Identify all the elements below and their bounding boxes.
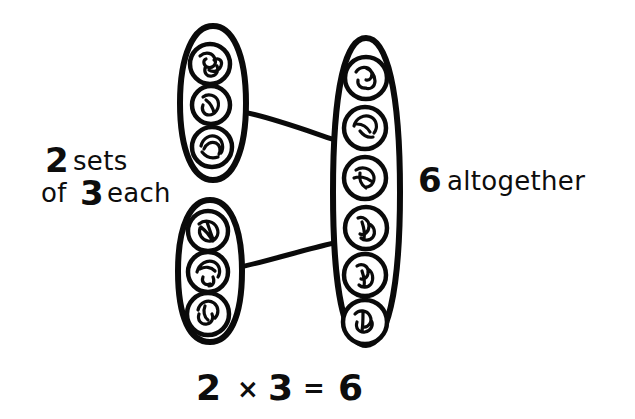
left-caption: 2 sets of 3 each: [41, 140, 171, 213]
set-item[interactable]: [187, 293, 229, 335]
diagram-svg: 2 sets of 3 each 6 altogether 2 × 3 = 6: [0, 0, 635, 419]
item-circle: [344, 254, 386, 296]
set-item[interactable]: [190, 44, 230, 84]
set-item[interactable]: [345, 57, 387, 99]
set-item[interactable]: [188, 252, 228, 292]
set-item[interactable]: [344, 107, 386, 149]
connector-line-bottom: [240, 243, 334, 267]
left-caption-word-each: each: [107, 178, 171, 208]
group-right-total-set[interactable]: [333, 38, 400, 345]
equation-multiply-operator: ×: [237, 374, 259, 404]
math-diagram-canvas: 2 sets of 3 each 6 altogether 2 × 3 = 6: [0, 0, 635, 419]
left-caption-word-sets: sets: [73, 146, 127, 176]
equation-left-operand: 2: [196, 367, 221, 408]
set-item[interactable]: [345, 207, 387, 249]
equation-right-operand: 3: [268, 367, 293, 408]
left-caption-number-3: 3: [80, 173, 104, 213]
equation-equals-sign: =: [303, 373, 325, 403]
left-caption-number-2: 2: [45, 140, 69, 180]
right-caption-number-6: 6: [418, 160, 442, 200]
group-bottom-left-set[interactable]: [178, 200, 242, 342]
item-circle: [187, 293, 229, 335]
item-circle: [190, 44, 230, 84]
set-item[interactable]: [188, 211, 228, 251]
set-item[interactable]: [343, 300, 387, 344]
set-item[interactable]: [192, 86, 230, 124]
item-circle: [188, 211, 228, 251]
connector-group: [240, 112, 335, 267]
connector-line-top: [243, 112, 335, 140]
left-caption-word-of: of: [41, 178, 67, 208]
group-top-left-set[interactable]: [180, 26, 246, 180]
set-item[interactable]: [344, 254, 386, 296]
right-caption: 6 altogether: [418, 160, 585, 200]
item-circle: [345, 57, 387, 99]
equation-row: 2 × 3 = 6: [196, 367, 363, 408]
item-circle: [192, 127, 232, 167]
set-item[interactable]: [192, 127, 232, 167]
equation-result: 6: [338, 367, 363, 408]
item-circle: [343, 300, 387, 344]
right-caption-word-altogether: altogether: [447, 166, 585, 196]
set-item[interactable]: [344, 157, 386, 199]
item-circle: [345, 207, 387, 249]
